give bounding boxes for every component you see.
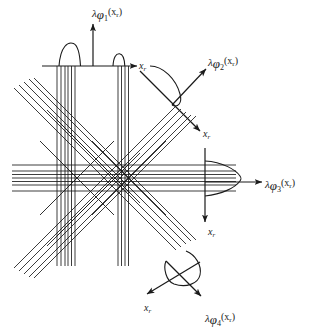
xr-top-sub: r [143, 65, 146, 73]
profile-curve-phi1-major [59, 43, 81, 66]
phi4-xr-axis [147, 262, 200, 294]
axis-phi1 [42, 24, 137, 66]
label-lambda-phi3: λφ3(xr) [265, 175, 295, 191]
label-lambda-phi4: λφ4(xr) [205, 309, 235, 325]
axis-phi4 [147, 261, 201, 296]
phi2-arg-close: ) [235, 55, 238, 66]
label-xr-top: xr [139, 56, 146, 72]
label-xr-diag-upper: xr [203, 124, 210, 140]
xr-vertical-sub: r [212, 231, 215, 239]
diagonal-ray-bundle-down-right [14, 78, 196, 250]
phi-symbol-4: φ [210, 312, 217, 327]
phi-symbol-1: φ [97, 7, 104, 22]
profile-curve-phi1-minor [113, 54, 125, 66]
projection-diagram-canvas [0, 0, 322, 336]
vertical-ray-bundle [57, 66, 129, 266]
figure-root: λφ1(xr) λφ2(xr) λφ3(xr) λφ4(xr) xr xr xr… [0, 0, 322, 336]
label-xr-vertical: xr [208, 222, 215, 238]
phi-symbol-2: φ [213, 56, 220, 71]
diagonal-ray-bundle-up-right [14, 106, 196, 278]
label-xr-diag-lower: xr [144, 298, 151, 314]
phi4-value-axis [166, 261, 201, 296]
axis-phi2 [140, 69, 206, 131]
label-lambda-phi1: λφ1(xr) [92, 4, 122, 20]
phi1-arg-close: ) [119, 6, 122, 17]
label-lambda-phi2: λφ2(xr) [208, 53, 238, 69]
phi3-arg-close: ) [292, 177, 295, 188]
xr-diag-lower-sub: r [148, 307, 151, 315]
phi4-arg-close: ) [232, 311, 235, 322]
xr-diag-upper-sub: r [207, 133, 210, 141]
phi-symbol-3: φ [270, 178, 277, 193]
phi2-xr-axis [140, 71, 200, 131]
ray-bundles [12, 66, 236, 278]
